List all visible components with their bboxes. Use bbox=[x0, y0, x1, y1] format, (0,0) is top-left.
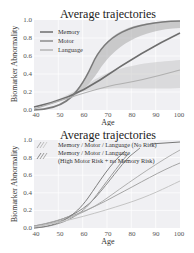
legend-memory: Memory bbox=[58, 28, 81, 35]
y-ticks: 0.0 0.2 0.4 0.6 0.8 1.0 bbox=[23, 16, 32, 114]
top-chart-svg: Average trajectories Memory Motor Langua… bbox=[0, 0, 194, 126]
bottom-chart: Average trajectories Memory / Motor / La… bbox=[0, 126, 194, 253]
svg-text:50: 50 bbox=[57, 111, 65, 119]
legend-motor: Motor bbox=[58, 37, 75, 44]
y-ticks: 0.0 0.2 0.4 0.6 0.8 1.0 bbox=[23, 136, 32, 232]
svg-text:60: 60 bbox=[81, 111, 89, 119]
svg-text:0.2: 0.2 bbox=[23, 88, 32, 96]
svg-text:0.4: 0.4 bbox=[23, 70, 32, 78]
x-axis-label: Age bbox=[101, 118, 115, 126]
svg-text:60: 60 bbox=[81, 230, 89, 238]
y-axis-label: Biomarker Abnormality bbox=[10, 146, 19, 223]
svg-text:90: 90 bbox=[153, 230, 161, 238]
svg-text:1.0: 1.0 bbox=[23, 16, 32, 24]
top-chart: Average trajectories Memory Motor Langua… bbox=[0, 0, 194, 126]
bottom-chart-svg: Average trajectories Memory / Motor / La… bbox=[0, 126, 194, 253]
svg-text:100: 100 bbox=[174, 111, 185, 119]
svg-text:100: 100 bbox=[174, 230, 185, 238]
svg-text:1.0: 1.0 bbox=[23, 136, 32, 144]
svg-text:0.4: 0.4 bbox=[23, 189, 32, 197]
svg-text:0.8: 0.8 bbox=[23, 154, 32, 162]
x-axis-label: Age bbox=[101, 237, 115, 246]
chart-title: Average trajectories bbox=[60, 128, 156, 142]
svg-text:40: 40 bbox=[33, 111, 41, 119]
svg-text:0.0: 0.0 bbox=[23, 224, 32, 232]
svg-text:0.0: 0.0 bbox=[23, 106, 32, 114]
svg-text:40: 40 bbox=[33, 230, 41, 238]
chart-title: Average trajectories bbox=[60, 7, 156, 21]
y-axis-label: Biomarker Abnormality bbox=[10, 26, 19, 103]
svg-text:0.6: 0.6 bbox=[23, 52, 32, 60]
svg-text:0.2: 0.2 bbox=[23, 206, 32, 214]
svg-text:90: 90 bbox=[153, 111, 161, 119]
svg-text:0.6: 0.6 bbox=[23, 171, 32, 179]
legend-risk-line1: Memory / Motor / Language bbox=[58, 149, 130, 156]
legend-no-risk: Memory / Motor / Language (No Risk) bbox=[58, 141, 157, 149]
legend-language: Language bbox=[58, 46, 83, 53]
svg-text:0.8: 0.8 bbox=[23, 34, 32, 42]
legend-risk-line2: (High Motor Risk + no Memory Risk) bbox=[58, 157, 155, 165]
svg-text:80: 80 bbox=[129, 111, 137, 119]
svg-text:50: 50 bbox=[57, 230, 65, 238]
svg-text:80: 80 bbox=[129, 230, 137, 238]
